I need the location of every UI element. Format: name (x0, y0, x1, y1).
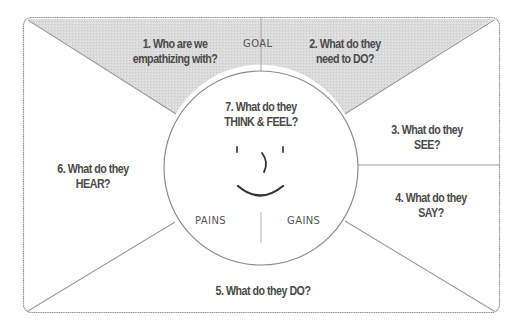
section-5-label: 5. What do they DO? (203, 283, 323, 298)
section-2-line2: need to DO? (296, 51, 394, 66)
section-6-label: 6. What do they HEAR? (45, 161, 142, 191)
empathy-map-canvas: 1. Who are we empathizing with? GOAL 2. … (0, 0, 522, 336)
section-6-line1: 6. What do they (45, 161, 142, 176)
goal-label: GOAL (243, 38, 272, 49)
section-2-label: 2. What do they need to DO? (296, 36, 394, 66)
section-3-line2: SEE? (379, 137, 476, 152)
section-7-line2: THINK & FEEL? (211, 114, 311, 129)
section-1-label: 1. Who are we empathizing with? (122, 36, 229, 66)
section-4-label: 4. What do they SAY? (383, 190, 480, 220)
divider-bottom-right (345, 221, 494, 311)
section-2-line1: 2. What do they (296, 36, 394, 51)
gains-label: GAINS (287, 215, 320, 226)
section-3-label: 3. What do they SEE? (379, 122, 476, 152)
section-7-line1: 7. What do they (211, 99, 311, 114)
divider-bottom-left (28, 222, 175, 311)
pains-label: PAINS (195, 215, 226, 226)
section-4-line1: 4. What do they (383, 190, 480, 205)
section-1-line2: empathizing with? (122, 51, 229, 66)
section-6-line2: HEAR? (45, 176, 142, 191)
section-5-line1: 5. What do they DO? (203, 283, 323, 298)
section-7-label: 7. What do they THINK & FEEL? (211, 99, 311, 129)
section-3-line1: 3. What do they (379, 122, 476, 137)
section-4-line2: SAY? (383, 205, 480, 220)
section-1-line1: 1. Who are we (122, 36, 229, 51)
